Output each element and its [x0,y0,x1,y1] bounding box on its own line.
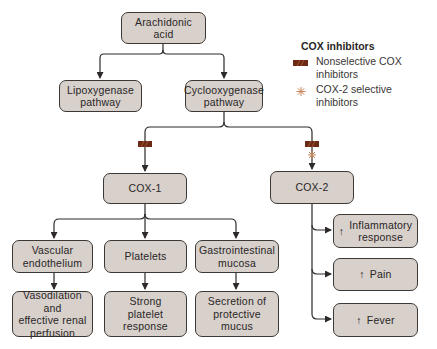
legend-title: COX inhibitors [301,40,433,52]
node-label: Fever [367,314,395,327]
node-cox2: COX-2 [270,171,354,204]
nonselective-bar-icon [293,56,309,68]
up-arrow-icon: ↑ [356,314,361,327]
node-vasodilation: Vasodilation and effective renal perfusi… [12,291,93,337]
node-label: Arachidonic acid [135,16,192,41]
node-label: COX-2 [295,181,328,194]
node-platelets: Platelets [104,240,187,273]
node-vascular-endothelium: Vascular endothelium [12,240,93,273]
asterisk-icon [293,84,309,96]
up-arrow-icon: ↑ [359,268,364,281]
legend-item-selective: COX-2 selective inhibitors [293,83,433,108]
node-lipoxygenase-pathway: Lipoxygenase pathway [59,80,142,112]
node-gastrointestinal-mucosa: Gastrointestinal mucosa [195,240,279,273]
node-pain: ↑ Pain [333,258,418,291]
up-arrow-icon: ↑ [339,225,344,238]
legend: COX inhibitors Nonselective COX inhibito… [293,40,433,108]
legend-label: Nonselective COX inhibitors [316,55,402,80]
node-cox1: COX-1 [103,173,187,204]
node-label: Platelets [124,250,166,263]
node-label: Strong platelet response [123,295,168,333]
node-label: Inflammatory response [349,219,412,244]
nonselective-inhibitor-marker-cox1 [138,141,152,147]
node-inflammatory-response: ↑ Inflammatory response [333,214,418,248]
node-label: Gastrointestinal mucosa [199,244,275,269]
node-secretion-protective-mucus: Secretion of protective mucus [195,291,279,337]
node-label: Pain [370,268,392,281]
nonselective-inhibitor-marker-cox2 [305,141,319,147]
selective-inhibitor-marker-cox2 [308,151,316,159]
node-label: COX-1 [128,182,161,195]
legend-item-nonselective: Nonselective COX inhibitors [293,55,433,80]
node-cyclooxygenase-pathway: Cyclooxygenase pathway [185,80,263,112]
node-label: Vasodilation and effective renal perfusi… [13,289,92,339]
node-label: Vascular endothelium [23,244,82,269]
legend-label: COX-2 selective inhibitors [316,83,392,108]
node-strong-platelet-response: Strong platelet response [104,291,187,337]
node-label: Cyclooxygenase pathway [184,84,264,109]
node-arachidonic-acid: Arachidonic acid [121,12,206,44]
node-fever: ↑ Fever [333,303,418,337]
node-label: Lipoxygenase pathway [67,84,134,109]
node-label: Secretion of protective mucus [208,295,266,333]
